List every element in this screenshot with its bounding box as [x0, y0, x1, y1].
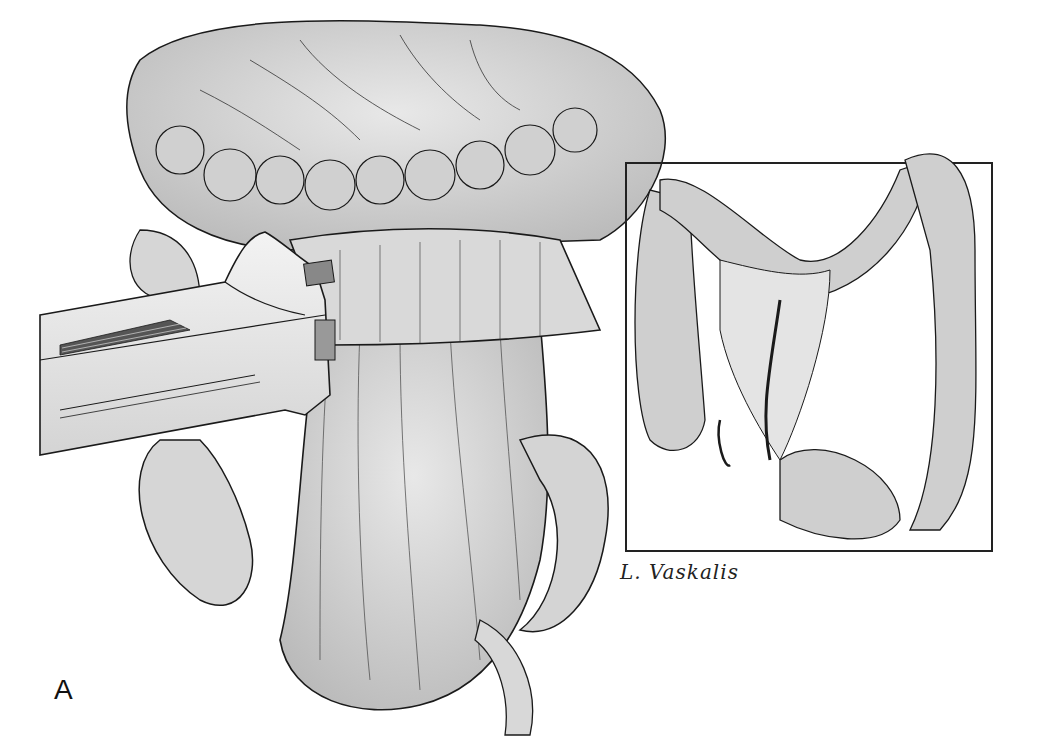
artist-signature: L. Vaskalis — [620, 560, 739, 584]
inset-colon-illustration — [0, 0, 1044, 743]
illustration-canvas: L. Vaskalis A — [0, 0, 1044, 743]
inset-small-bowel — [719, 260, 830, 466]
panel-label: A — [54, 674, 73, 706]
